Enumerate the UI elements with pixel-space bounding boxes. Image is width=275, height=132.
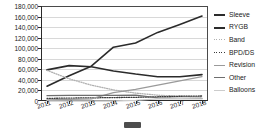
y-tick-mark xyxy=(38,59,41,60)
scroll-thumb[interactable] xyxy=(124,122,141,128)
legend-item-label: Other xyxy=(229,74,246,81)
plot-area xyxy=(41,6,208,101)
x-tick-label: 2014 xyxy=(102,99,118,110)
x-axis-tick-labels: 20112012201320142015201620172018 xyxy=(41,101,208,123)
legend-item-bpd-ds[interactable]: BPD/DS xyxy=(214,46,275,59)
legend-item-band[interactable]: Band xyxy=(214,33,275,46)
legend-swatch-icon xyxy=(214,24,225,30)
y-tick-mark xyxy=(38,38,41,39)
legend-item-balloons[interactable]: Balloons xyxy=(214,84,275,97)
series-lines xyxy=(41,6,208,101)
x-tick-label: 2016 xyxy=(147,99,163,110)
legend-item-label: BPD/DS xyxy=(229,49,254,56)
y-tick-label: 20,000 xyxy=(18,87,38,94)
legend-swatch-icon xyxy=(214,87,225,93)
legend-swatch-icon xyxy=(214,11,225,17)
y-tick-mark xyxy=(38,80,41,81)
legend-item-other[interactable]: Other xyxy=(214,71,275,84)
y-tick-label: 140,000 xyxy=(15,24,39,31)
y-tick-mark xyxy=(38,48,41,49)
y-tick-mark xyxy=(38,69,41,70)
legend-item-rygb[interactable]: RYGB xyxy=(214,21,275,34)
chart-legend: SleeveRYGBBandBPD/DSRevisionOtherBalloon… xyxy=(214,8,275,96)
legend-item-label: Sleeve xyxy=(229,11,250,18)
line-chart: 180,000160,000140,000120,000100,00080,00… xyxy=(0,0,275,132)
x-tick-label: 2015 xyxy=(125,99,141,110)
legend-item-label: RYGB xyxy=(229,23,248,30)
legend-swatch-icon xyxy=(214,36,225,42)
y-tick-label: 60,000 xyxy=(18,66,38,73)
x-tick-label: 2018 xyxy=(191,99,207,110)
y-tick-mark xyxy=(38,6,41,7)
legend-swatch-icon xyxy=(214,49,225,55)
legend-item-label: Balloons xyxy=(229,86,255,93)
legend-item-label: Revision xyxy=(229,61,255,68)
x-tick-label: 2013 xyxy=(80,99,96,110)
y-tick-label: 100,000 xyxy=(15,45,39,52)
legend-swatch-icon xyxy=(214,74,225,80)
y-tick-label: 80,000 xyxy=(18,55,38,62)
y-tick-label: 180,000 xyxy=(15,3,39,10)
legend-item-sleeve[interactable]: Sleeve xyxy=(214,8,275,21)
legend-item-revision[interactable]: Revision xyxy=(214,58,275,71)
y-tick-mark xyxy=(38,17,41,18)
x-tick-label: 2012 xyxy=(58,99,74,110)
y-tick-label: 120,000 xyxy=(15,34,39,41)
y-tick-label: 160,000 xyxy=(15,13,39,20)
series-line-sleeve xyxy=(47,16,202,86)
x-tick-label: 2017 xyxy=(169,99,185,110)
y-axis-tick-labels: 180,000160,000140,000120,000100,00080,00… xyxy=(0,0,40,104)
y-tick-mark xyxy=(38,27,41,28)
legend-item-label: Band xyxy=(229,36,245,43)
y-tick-label: 40,000 xyxy=(18,76,38,83)
y-tick-mark xyxy=(38,90,41,91)
legend-swatch-icon xyxy=(214,62,225,68)
